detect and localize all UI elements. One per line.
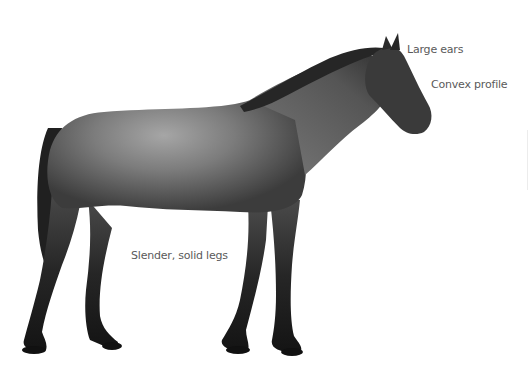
hoof [22, 346, 46, 354]
label-convex-profile: Convex profile [431, 78, 507, 91]
hoof [102, 342, 122, 350]
head [365, 47, 431, 134]
hoof [226, 346, 250, 354]
label-slender-legs: Slender, solid legs [131, 249, 228, 262]
hind-leg-near [24, 190, 80, 350]
front-leg-near [270, 200, 301, 352]
hind-leg-far [85, 200, 118, 347]
ear-right [390, 33, 400, 50]
horse-illustration [0, 0, 529, 378]
ear-left [382, 36, 392, 50]
horse-anatomy-figure: Large ears Convex profile Slender, solid… [0, 0, 529, 378]
hoof [281, 348, 303, 356]
front-leg-far [222, 205, 268, 350]
edge-divider [527, 130, 528, 190]
label-large-ears: Large ears [407, 43, 463, 56]
